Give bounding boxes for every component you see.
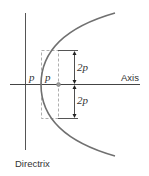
label-p-right: p [44, 71, 51, 83]
upper-dimension-arrow [73, 51, 77, 84]
parabola-diagram: p p 2p 2p Axis Directrix [0, 0, 149, 176]
label-p-left: p [28, 71, 35, 83]
lower-dimension-arrow [73, 85, 77, 118]
label-directrix: Directrix [15, 158, 50, 169]
focus-point [57, 83, 61, 87]
label-axis: Axis [121, 72, 139, 83]
label-2p-lower: 2p [77, 94, 89, 106]
label-2p-upper: 2p [77, 61, 89, 73]
